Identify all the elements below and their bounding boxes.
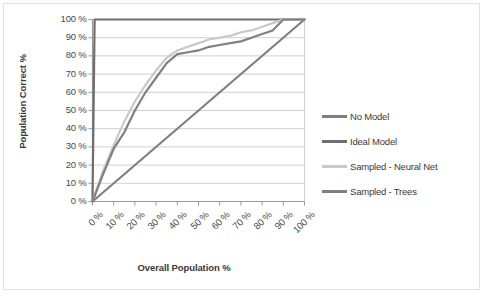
y-axis-tick-label: 40 % <box>41 122 87 133</box>
y-axis-tick-label: 70 % <box>41 68 87 79</box>
legend-item[interactable]: Sampled - Trees <box>322 179 482 204</box>
y-axis-tick-label: 80 % <box>41 49 87 60</box>
y-axis-tick-label: 50 % <box>41 104 87 115</box>
legend-item-label: Ideal Model <box>350 136 397 147</box>
legend-color-swatch <box>322 190 347 192</box>
x-axis-title: Overall Population % <box>44 262 324 273</box>
legend-color-swatch <box>322 165 347 167</box>
legend-item[interactable]: Ideal Model <box>322 129 482 154</box>
y-axis-tick-label: 90 % <box>41 31 87 42</box>
legend-item-label: Sampled - Neural Net <box>350 161 437 172</box>
legend-color-swatch <box>322 115 347 117</box>
legend-color-swatch <box>322 140 347 142</box>
y-axis-title: Population Correct % <box>17 22 28 182</box>
y-axis-tick-label: 10 % <box>41 177 87 188</box>
legend-item-label: No Model <box>350 111 389 122</box>
legend-item[interactable]: No Model <box>322 104 482 129</box>
y-axis-tick-label: 100 % <box>41 13 87 24</box>
y-axis-tick-label: 0 % <box>41 195 87 206</box>
chart-legend: No ModelIdeal ModelSampled - Neural NetS… <box>322 104 482 204</box>
chart-frame: 0 %10 %20 %30 %40 %50 %60 %70 %80 %90 %1… <box>3 3 480 290</box>
legend-item-label: Sampled - Trees <box>350 186 417 197</box>
legend-item[interactable]: Sampled - Neural Net <box>322 154 482 179</box>
y-axis-tick-label: 30 % <box>41 140 87 151</box>
y-axis-tick-label: 20 % <box>41 159 87 170</box>
y-axis-tick-label: 60 % <box>41 86 87 97</box>
